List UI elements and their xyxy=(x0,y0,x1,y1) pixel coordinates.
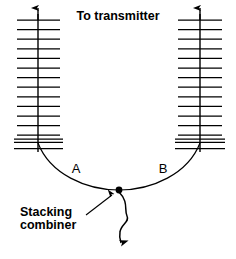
stacking-combiner-label-line2: combiner xyxy=(20,218,76,232)
stacking-combiner-label-line1: Stacking xyxy=(20,205,72,219)
antenna-stacking-diagram: To transmitter A B Stacking combiner xyxy=(0,0,236,259)
left-leg-label: A xyxy=(72,161,81,176)
right-leg-label: B xyxy=(159,161,168,176)
diagram-canvas: To transmitter A B Stacking combiner xyxy=(0,0,236,259)
page-title: To transmitter xyxy=(76,9,159,23)
